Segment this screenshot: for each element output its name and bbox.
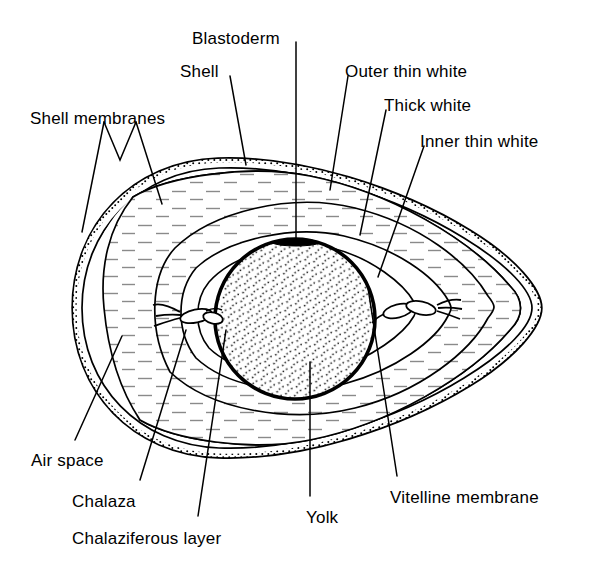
leader-shell	[230, 76, 246, 165]
egg-anatomy-figure: Blastoderm Shell Outer thin white Shell …	[0, 0, 616, 586]
label-yolk: Yolk	[306, 509, 338, 526]
leader-outer-thin-white	[330, 76, 348, 190]
label-air-space: Air space	[31, 452, 104, 469]
leader-shell-membranes-1	[82, 122, 104, 232]
label-shell: Shell	[180, 63, 219, 80]
label-chalaza: Chalaza	[72, 493, 136, 510]
label-thick-white: Thick white	[384, 97, 471, 114]
label-inner-thin-white: Inner thin white	[420, 133, 539, 150]
label-chalaziferous-layer: Chalaziferous layer	[72, 530, 221, 547]
vitelline-membrane-circle	[215, 239, 375, 399]
label-vitelline-membrane: Vitelline membrane	[390, 489, 539, 506]
label-shell-membranes: Shell membranes	[30, 110, 165, 127]
label-blastoderm: Blastoderm	[192, 30, 280, 47]
label-outer-thin-white: Outer thin white	[345, 63, 467, 80]
yolk-structure	[215, 239, 375, 399]
